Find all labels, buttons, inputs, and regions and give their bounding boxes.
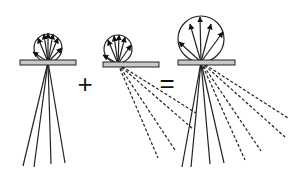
surface-plate bbox=[20, 60, 76, 65]
transmitted-ray-solid bbox=[201, 62, 210, 164]
diagram-canvas: + = bbox=[0, 0, 300, 178]
transmitted-ray-solid bbox=[34, 62, 48, 167]
transmitted-ray-dashed bbox=[118, 64, 196, 113]
scattering-diagram: + = bbox=[0, 0, 300, 178]
transmitted-ray-solid bbox=[23, 62, 48, 166]
reflected-arrow bbox=[200, 17, 201, 62]
transmitted-ray-solid bbox=[191, 62, 201, 167]
transmitted-ray-dashed bbox=[118, 64, 158, 158]
transmitted-ray-dashed bbox=[201, 62, 261, 151]
panel-reflection-only bbox=[20, 33, 76, 167]
reflected-arrow bbox=[201, 24, 211, 62]
transmitted-ray-dashed bbox=[201, 62, 285, 137]
panel-diffuse-transmission bbox=[103, 35, 196, 158]
transmitted-ray-solid bbox=[182, 62, 201, 167]
transmitted-ray-dashed bbox=[118, 64, 193, 129]
equals-operator: = bbox=[159, 68, 174, 98]
surface-plate bbox=[103, 62, 159, 67]
surface-plate bbox=[178, 60, 235, 65]
plus-operator: + bbox=[77, 69, 92, 99]
panel-combined bbox=[178, 16, 288, 167]
reflected-arrow bbox=[201, 32, 223, 62]
transmitted-ray-solid bbox=[201, 62, 224, 163]
